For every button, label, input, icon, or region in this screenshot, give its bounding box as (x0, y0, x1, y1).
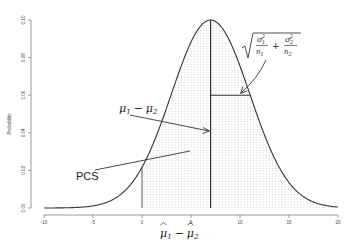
mean-difference-annotation: μ1−μ2 (119, 102, 210, 134)
svg-text:0.10: 0.10 (21, 15, 26, 24)
x-axis-label: μ1−μ2 (160, 223, 199, 242)
svg-text:n1: n1 (256, 48, 264, 57)
svg-text:0.08: 0.08 (21, 53, 26, 62)
svg-text:μ1−μ2: μ1−μ2 (119, 102, 158, 116)
pcs-shaded-region (144, 20, 335, 208)
svg-text:n2: n2 (284, 48, 292, 57)
svg-text:0.00: 0.00 (21, 203, 26, 212)
svg-text:+: + (272, 41, 280, 51)
svg-text:20: 20 (335, 220, 341, 225)
normal-distribution-chart: 0.000.020.040.060.080.10 -10-505101520 P… (0, 0, 354, 246)
svg-text:0.02: 0.02 (21, 166, 26, 175)
standard-error-annotation: σ 2 1 n1 + σ 2 2 n2 (241, 33, 302, 94)
svg-text:PCS: PCS (76, 170, 99, 182)
svg-text:-5: -5 (91, 220, 95, 225)
svg-text:1: 1 (262, 39, 265, 45)
y-axis-label: Probability (7, 113, 12, 135)
svg-text:2: 2 (289, 39, 293, 45)
svg-text:0.04: 0.04 (21, 128, 26, 137)
x-axis: -10-505101520 (41, 215, 341, 225)
svg-text:0.06: 0.06 (21, 90, 26, 99)
svg-text:μ1−μ2: μ1−μ2 (160, 227, 199, 241)
svg-text:10: 10 (237, 220, 243, 225)
pcs-annotation: PCS (76, 151, 190, 182)
svg-text:-10: -10 (41, 220, 48, 225)
svg-text:0: 0 (141, 220, 144, 225)
y-axis: 0.000.020.040.060.080.10 (21, 15, 31, 212)
svg-text:15: 15 (286, 220, 292, 225)
